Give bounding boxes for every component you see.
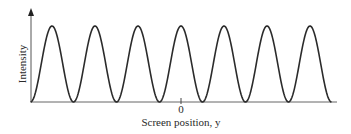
intensity-curve — [31, 26, 332, 102]
y-axis-label: Intensity — [15, 44, 29, 84]
x-axis-label: Screen position, y — [120, 115, 242, 129]
y-axis-arrow-icon — [28, 8, 34, 16]
x-tick-zero-label: 0 — [176, 103, 186, 115]
